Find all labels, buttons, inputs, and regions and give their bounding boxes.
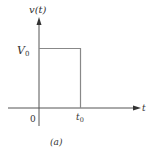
pulse-end-label: t0 [76,112,84,124]
pulse-waveform [39,49,81,109]
x-axis-arrow-icon [133,106,141,111]
y-axis-arrow-icon [37,17,42,25]
x-axis-label: t [142,103,146,113]
figure-caption: (a) [50,137,63,147]
y-axis-label: v(t) [29,4,47,15]
amplitude-label: V0 [17,44,29,58]
pulse-diagram: v(t) V0 0 t0 t (a) [0,0,148,156]
origin-label: 0 [30,114,36,124]
